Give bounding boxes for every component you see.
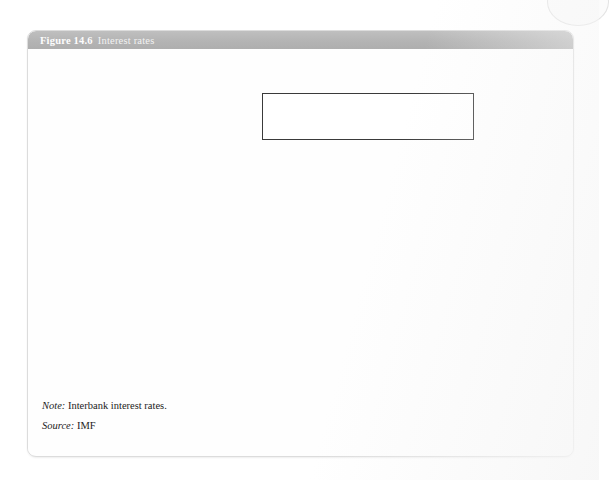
figure-number: Figure 14.6 — [40, 35, 93, 46]
note-text: Interbank interest rates. — [68, 400, 167, 411]
figure-notes: Note: Interbank interest rates. Source: … — [28, 394, 573, 440]
figure-header: Figure 14.6 Interest rates — [28, 31, 573, 49]
note-label: Note: — [42, 400, 65, 411]
figure-card: Figure 14.6 Interest rates Note: Interba… — [27, 30, 574, 457]
figure-body: Note: Interbank interest rates. Source: … — [28, 49, 573, 455]
source-label: Source: — [42, 420, 74, 431]
source-row: Source: IMF — [42, 420, 573, 431]
chart-legend — [262, 93, 474, 140]
note-row: Note: Interbank interest rates. — [42, 400, 573, 411]
figure-caption: Interest rates — [98, 35, 155, 46]
source-text: IMF — [77, 420, 96, 431]
page-corner-artifact — [547, 0, 609, 26]
